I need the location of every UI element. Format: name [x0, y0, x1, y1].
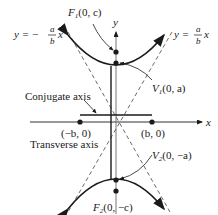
v2-pointer-arrow	[120, 155, 152, 179]
v2-label: V2(0, −a)	[152, 149, 192, 163]
f1-label: F1(0, c)	[67, 6, 102, 20]
svg-text:y =: y =	[173, 28, 189, 40]
focus-f2-point	[113, 188, 118, 193]
svg-text:a: a	[50, 24, 55, 34]
svg-text:a: a	[196, 24, 201, 34]
hyperbola-diagram: y x F1(0, c) V1(0, a) V2(0, −a) F2(0, −c…	[0, 0, 218, 215]
f2-label: F2(0, −c)	[92, 201, 133, 215]
svg-text:x: x	[203, 28, 209, 40]
asymptote-positive-equation: y = a b x	[173, 24, 209, 46]
v1-pointer-arrow	[120, 63, 152, 80]
neg-b-point	[77, 119, 82, 124]
f1-pointer-arrow	[93, 24, 113, 50]
svg-text:y = −: y = −	[13, 28, 39, 40]
y-axis-label: y	[112, 16, 118, 28]
v1-label: V1(0, a)	[152, 82, 186, 96]
transverse-axis-label: Transverse axis	[30, 138, 98, 150]
svg-text:b: b	[196, 36, 201, 46]
focus-f1-point	[113, 49, 118, 54]
pos-b-point	[149, 119, 154, 124]
vertex-v2-point	[113, 177, 118, 182]
svg-text:b: b	[50, 36, 55, 46]
vertex-v1-point	[113, 60, 118, 65]
x-axis-label: x	[205, 116, 211, 128]
pos-b-label: (b, 0)	[141, 127, 165, 140]
asymptote-negative-equation: y = − a b x	[13, 24, 63, 46]
svg-text:x: x	[57, 28, 63, 40]
conjugate-axis-label: Conjugate axis	[25, 90, 91, 102]
